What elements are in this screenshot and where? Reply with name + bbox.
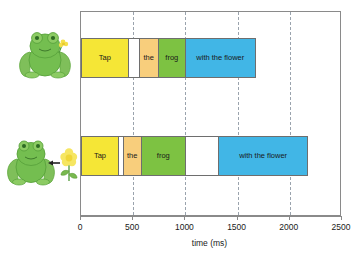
x-axis-tick bbox=[341, 216, 342, 220]
frog-holding-flower-icon bbox=[14, 26, 76, 84]
bar-segment-label: the bbox=[127, 152, 137, 160]
x-axis-tick-label: 2500 bbox=[332, 222, 351, 232]
x-axis-tick-label: 1500 bbox=[227, 222, 246, 232]
bar-segment-word: with the flower bbox=[218, 136, 308, 176]
bar-segment-label: Tap bbox=[99, 54, 111, 62]
chart-plot-area: Tapthefrogwith the flowerTapthefrogwith … bbox=[80, 11, 341, 216]
x-axis-tick bbox=[184, 216, 185, 220]
bar-segment-pause bbox=[185, 136, 219, 176]
frog-with-arrow-to-flower-icon bbox=[4, 133, 78, 191]
bar-segment-word: the bbox=[139, 38, 159, 78]
x-axis-tick-label: 1000 bbox=[175, 222, 194, 232]
x-axis-tick bbox=[80, 216, 81, 220]
bar-segment-word: Tap bbox=[81, 136, 119, 176]
x-axis-tick bbox=[237, 216, 238, 220]
utterance-bar: Tapthefrogwith the flower bbox=[81, 38, 256, 78]
utterance-bar: Tapthefrogwith the flower bbox=[81, 136, 308, 176]
bar-segment-word: frog bbox=[158, 38, 186, 78]
x-axis-tick-label: 500 bbox=[125, 222, 139, 232]
bar-segment-word: frog bbox=[141, 136, 186, 176]
bar-segment-label: frog bbox=[165, 54, 178, 62]
bar-segment-label: with the flower bbox=[239, 152, 287, 160]
x-axis-tick bbox=[289, 216, 290, 220]
bar-segment-label: frog bbox=[157, 152, 170, 160]
bar-segment-word: with the flower bbox=[185, 38, 256, 78]
bar-segment-word: the bbox=[123, 136, 142, 176]
x-axis-line bbox=[80, 216, 341, 217]
x-axis-tick-label: 0 bbox=[78, 222, 83, 232]
bar-segment-word: Tap bbox=[81, 38, 129, 78]
bar-segment-label: with the flower bbox=[196, 54, 244, 62]
bar-segment-label: Tap bbox=[94, 152, 106, 160]
x-axis-tick-label: 2000 bbox=[279, 222, 298, 232]
gridline bbox=[290, 12, 291, 215]
x-axis-title-label: time (ms) bbox=[192, 238, 227, 248]
bar-segment-label: the bbox=[143, 54, 153, 62]
x-axis-tick bbox=[132, 216, 133, 220]
x-axis-title: time (ms) bbox=[0, 238, 361, 248]
